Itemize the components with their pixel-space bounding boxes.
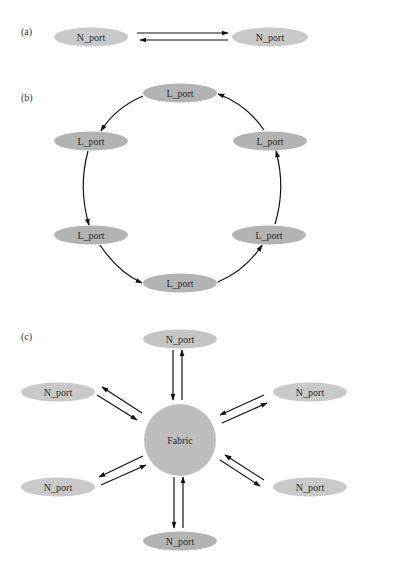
port-label: L_port bbox=[255, 230, 282, 241]
arrow-edge bbox=[220, 395, 264, 415]
n-port-node: N_port bbox=[232, 28, 308, 47]
port-label: N_port bbox=[166, 536, 195, 547]
arrow-edge bbox=[99, 456, 143, 477]
arrow-edge bbox=[222, 403, 267, 423]
n-port-node: N_port bbox=[54, 28, 128, 47]
port-label: L_port bbox=[166, 278, 193, 289]
panel-c: (c)FabricN_portN_portN_portN_portN_portN… bbox=[21, 330, 347, 551]
panel-label: (c) bbox=[21, 331, 32, 343]
n-port-node: N_port bbox=[273, 383, 347, 402]
fibre-channel-topologies-diagram: (a)N_portN_port(b)L_portL_portL_portL_po… bbox=[0, 0, 393, 566]
port-label: L_port bbox=[77, 136, 104, 147]
arrow-edge bbox=[101, 465, 146, 485]
port-label: N_port bbox=[44, 482, 73, 493]
l-port-node: L_port bbox=[143, 84, 217, 103]
panel-label: (b) bbox=[21, 92, 33, 104]
port-label: N_port bbox=[166, 334, 195, 345]
fabric-label: Fabric bbox=[167, 435, 193, 446]
n-port-node: N_port bbox=[21, 383, 95, 402]
panel-b: (b)L_portL_portL_portL_portL_portL_port bbox=[21, 84, 307, 293]
l-port-node: L_port bbox=[54, 226, 128, 245]
arrow-edge bbox=[275, 151, 281, 224]
n-port-node: N_port bbox=[143, 532, 217, 551]
port-label: N_port bbox=[44, 387, 73, 398]
l-port-node: L_port bbox=[143, 274, 217, 293]
arrow-edge bbox=[100, 245, 142, 283]
arrow-edge bbox=[101, 96, 143, 131]
port-label: N_port bbox=[296, 387, 325, 398]
n-port-node: N_port bbox=[273, 478, 347, 497]
arrow-edge bbox=[97, 395, 137, 420]
l-port-node: L_port bbox=[54, 132, 128, 151]
arrow-edge bbox=[102, 387, 142, 413]
l-port-node: L_port bbox=[233, 132, 307, 151]
panel-a: (a)N_portN_port bbox=[21, 26, 308, 47]
n-port-node: N_port bbox=[21, 478, 95, 497]
arrow-edge bbox=[83, 151, 89, 225]
port-label: L_port bbox=[166, 88, 193, 99]
arrow-edge bbox=[218, 245, 262, 282]
port-label: L_port bbox=[77, 230, 104, 241]
panels: (a)N_portN_port(b)L_portL_portL_portL_po… bbox=[21, 26, 347, 551]
port-label: L_port bbox=[256, 136, 283, 147]
arrow-edge bbox=[218, 94, 264, 130]
panel-label: (a) bbox=[21, 26, 32, 38]
n-port-node: N_port bbox=[143, 330, 217, 349]
fabric-node: Fabric bbox=[144, 404, 216, 476]
port-label: N_port bbox=[296, 482, 325, 493]
port-label: N_port bbox=[77, 32, 106, 43]
l-port-node: L_port bbox=[232, 226, 306, 245]
port-label: N_port bbox=[256, 32, 285, 43]
